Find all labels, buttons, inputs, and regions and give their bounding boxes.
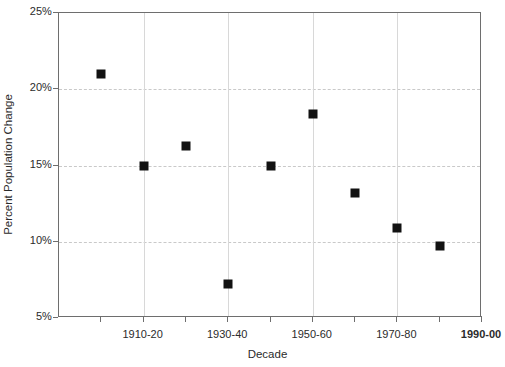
x-tick-mark: [270, 316, 271, 322]
x-axis-title-text: Decade: [248, 348, 288, 360]
y-tick-mark: [53, 317, 58, 318]
x-tick-mark: [100, 316, 101, 322]
x-tick-label: 1910-20: [122, 328, 162, 340]
x-tick-mark: [143, 316, 144, 322]
data-point: [181, 141, 190, 150]
data-point: [435, 242, 444, 251]
y-tick-label: 20%: [12, 81, 52, 93]
gridline-vertical: [397, 13, 398, 316]
data-point: [97, 70, 106, 79]
data-point: [139, 161, 148, 170]
gridline-vertical: [228, 13, 229, 316]
y-tick-label: 10%: [12, 234, 52, 246]
x-axis-title: Decade: [0, 348, 505, 360]
y-tick-label: 25%: [12, 5, 52, 17]
x-tick-mark: [354, 316, 355, 322]
x-tick-label: 1930-40: [207, 328, 247, 340]
x-tick-mark: [396, 316, 397, 322]
x-tick-mark: [439, 316, 440, 322]
gridline-horizontal: [59, 89, 480, 90]
x-tick-label: 1950-60: [292, 328, 332, 340]
gridline-vertical: [313, 13, 314, 316]
x-tick-mark: [227, 316, 228, 322]
y-tick-label: 15%: [12, 158, 52, 170]
data-point: [351, 188, 360, 197]
scatter-chart-figure: Percent Population Change 25%20%15%10%5%…: [0, 0, 505, 367]
x-tick-label: 1990-00: [461, 328, 501, 340]
plot-area: [58, 12, 481, 317]
x-tick-mark: [312, 316, 313, 322]
data-point: [308, 109, 317, 118]
data-point: [224, 280, 233, 289]
x-tick-mark: [481, 316, 482, 322]
x-tick-label: 1970-80: [376, 328, 416, 340]
gridline-horizontal: [59, 242, 480, 243]
y-tick-label: 5%: [12, 310, 52, 322]
x-tick-mark: [185, 316, 186, 322]
data-point: [393, 224, 402, 233]
data-point: [266, 161, 275, 170]
